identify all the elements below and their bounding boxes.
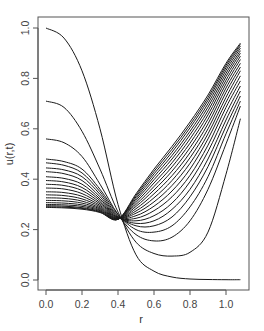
- y-tick-label: 1.0: [19, 21, 31, 36]
- x-axis: 0.00.20.40.60.81.0: [39, 290, 234, 310]
- x-tick-label: 1.0: [219, 298, 234, 310]
- y-tick-label: 0.0: [19, 273, 31, 288]
- plot-frame: [38, 17, 249, 290]
- curve-t0: [46, 28, 240, 280]
- y-tick-label: 0.2: [19, 222, 31, 237]
- line-chart: 0.00.20.40.60.81.0 0.00.20.40.60.81.0 r …: [0, 0, 264, 331]
- x-tick-label: 0.2: [75, 298, 90, 310]
- y-tick-label: 0.6: [19, 121, 31, 136]
- y-tick-label: 0.8: [19, 71, 31, 86]
- x-axis-label: r: [139, 313, 143, 325]
- x-tick-label: 0.8: [183, 298, 198, 310]
- curves-group: [46, 28, 240, 280]
- y-axis-label: u(r,t): [3, 143, 15, 166]
- curve-t16: [46, 48, 240, 219]
- x-tick-label: 0.0: [39, 298, 54, 310]
- y-axis: 0.00.20.40.60.81.0: [19, 21, 38, 288]
- curve-t1: [46, 101, 240, 256]
- x-tick-label: 0.4: [111, 298, 126, 310]
- y-tick-label: 0.4: [19, 172, 31, 187]
- x-tick-label: 0.6: [147, 298, 162, 310]
